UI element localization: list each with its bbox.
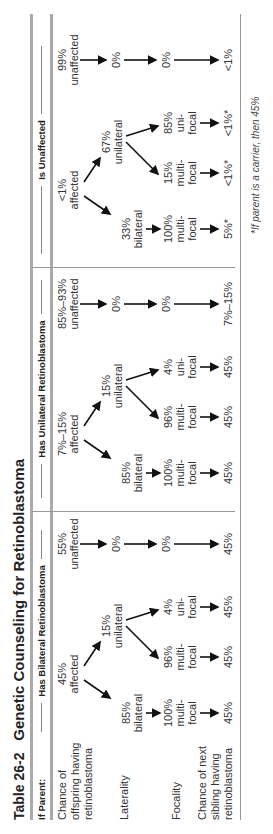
row-label-focality: Focality xyxy=(170,740,183,820)
row-label-sibling: Chance of next sibling having retinoblas… xyxy=(196,740,235,820)
row-label-laterality: Laterality xyxy=(118,740,131,820)
bottom-rule xyxy=(240,14,241,820)
row-label-chance: Chance of offspring having retinoblastom… xyxy=(56,740,95,820)
arrow-icon xyxy=(0,518,240,738)
arrow-icon xyxy=(0,34,240,254)
column-separator xyxy=(32,267,235,268)
arrow-icon xyxy=(0,278,240,498)
row-header: If Parent: xyxy=(36,779,47,820)
rotated-table-page: Table 26-2 Genetic Counseling for Retino… xyxy=(0,0,273,834)
footnote: *If parent is a carrier, then 45% xyxy=(250,97,261,234)
column-separator xyxy=(32,511,235,512)
table-number: Table 26-2 xyxy=(11,753,27,820)
